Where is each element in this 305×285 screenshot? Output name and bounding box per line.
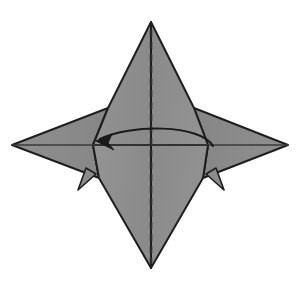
origami-figure-svg xyxy=(0,0,305,285)
origami-diagram xyxy=(0,0,305,285)
